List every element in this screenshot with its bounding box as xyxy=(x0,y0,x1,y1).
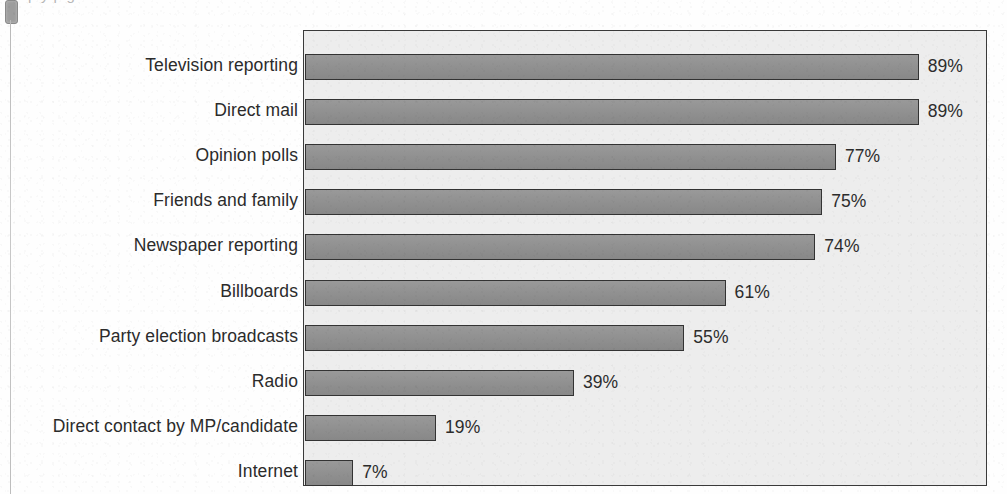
category-label: Direct mail xyxy=(214,100,298,121)
page-marker-icon xyxy=(5,0,18,24)
bar-direct-contact-by-mp-candidate xyxy=(305,415,436,441)
caption-fragment: p y p g xyxy=(0,0,1007,4)
bar-value-label: 77% xyxy=(845,146,880,167)
bar-television-reporting xyxy=(305,54,919,80)
bar-value-label: 75% xyxy=(831,192,866,213)
margin-rule-divider xyxy=(10,20,11,494)
bar-value-label: 39% xyxy=(583,372,618,393)
bar-value-label: 55% xyxy=(693,327,728,348)
category-label: Opinion polls xyxy=(196,145,298,166)
category-label: Television reporting xyxy=(145,55,298,76)
bar-newspaper-reporting xyxy=(305,234,815,260)
bar-value-label: 19% xyxy=(445,417,480,438)
bar-chart: 89%89%77%75%74%61%55%39%19%7% xyxy=(303,30,987,486)
category-label: Billboards xyxy=(220,281,298,302)
bar-value-label: 89% xyxy=(928,101,963,122)
category-label: Radio xyxy=(252,371,298,392)
bar-radio xyxy=(305,370,574,396)
plot-area: 89%89%77%75%74%61%55%39%19%7% xyxy=(304,31,986,485)
bar-value-label: 61% xyxy=(735,282,770,303)
bar-party-election-broadcasts xyxy=(305,325,684,351)
category-label: Party election broadcasts xyxy=(99,326,298,347)
bar-opinion-polls xyxy=(305,144,836,170)
category-label: Newspaper reporting xyxy=(134,236,298,257)
scanned-page: p y p g 89%89%77%75%74%61%55%39%19%7% Te… xyxy=(0,0,1007,494)
category-label: Direct contact by MP/candidate xyxy=(53,416,298,437)
bar-friends-and-family xyxy=(305,189,822,215)
bar-value-label: 7% xyxy=(362,462,388,483)
bar-direct-mail xyxy=(305,99,919,125)
category-label: Friends and family xyxy=(153,191,298,212)
bar-value-label: 74% xyxy=(824,237,859,258)
category-label: Internet xyxy=(238,461,298,482)
bar-value-label: 89% xyxy=(928,56,963,77)
bar-billboards xyxy=(305,280,726,306)
bar-internet xyxy=(305,460,353,486)
